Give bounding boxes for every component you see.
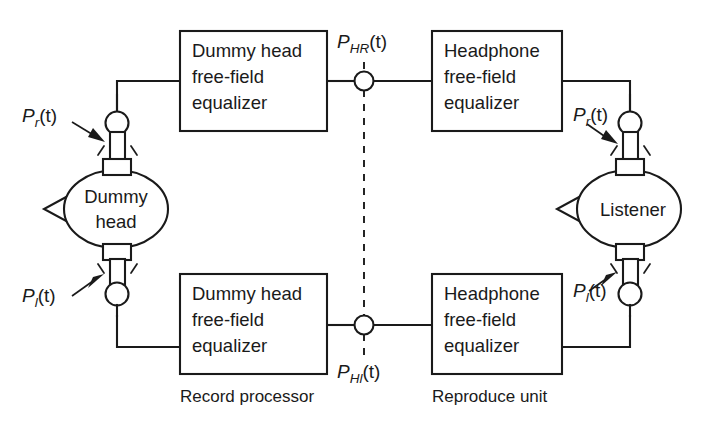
signal-label-node-bottom: PHl(t) <box>337 361 380 386</box>
block-record-top-line3: equalizer <box>192 92 267 113</box>
dummy-head-label-line2: head <box>95 211 136 232</box>
block-diagram-figure: Dummy head free-field equalizer Dummy he… <box>0 0 715 433</box>
arrow-head-listener-right-icon <box>601 130 618 144</box>
signal-label-listener-right: Pr(t) <box>573 104 608 129</box>
signal-listener-right-arg: (t) <box>590 104 608 125</box>
dummy-head-ellipse <box>64 170 168 248</box>
block-record-bottom-line2: free-field <box>192 309 264 330</box>
listener-right-ear-flap-right-icon <box>644 146 650 155</box>
signal-node-top-sub: HR <box>350 41 370 56</box>
arrow-head-dummy-left-icon <box>88 274 104 288</box>
block-reproduce-top-line1: Headphone <box>444 40 540 61</box>
signal-listener-right-base: P <box>573 104 586 125</box>
dummy-left-mic-capsule-icon <box>106 283 129 306</box>
signal-label-node-top: PHR(t) <box>337 31 387 56</box>
dummy-right-mic-stem <box>110 132 125 160</box>
block-reproduce-top-line2: free-field <box>444 66 516 87</box>
signal-node-bottom-sub: Hl <box>350 371 364 386</box>
caption-reproduce-unit: Reproduce unit <box>432 387 548 406</box>
listener-left-ear-flap-left-icon <box>611 264 617 273</box>
block-record-bottom-line1: Dummy head <box>192 283 302 304</box>
wire-reproduce-bottom-to-listener-left <box>562 316 630 347</box>
signal-node-top-base: P <box>337 31 350 52</box>
block-record-top-line2: free-field <box>192 66 264 87</box>
wire-dummy-right-to-record-top <box>117 81 180 112</box>
signal-dummy-right-base: P <box>22 105 35 126</box>
dummy-right-ear-flap-left-icon <box>98 146 104 155</box>
wire-dummy-left-to-record-bottom <box>117 316 180 347</box>
signal-listener-left-base: P <box>573 280 586 301</box>
signal-node-bottom-base: P <box>337 361 350 382</box>
block-reproduce-top-line3: equalizer <box>444 92 519 113</box>
signal-dummy-left-arg: (t) <box>38 285 56 306</box>
dummy-right-ear-coupler <box>103 159 131 175</box>
signal-listener-left-arg: (t) <box>589 280 607 301</box>
arrow-line-dummy-left <box>72 281 93 296</box>
listener-head-label: Listener <box>600 199 666 220</box>
signal-label-dummy-right: Pr(t) <box>22 105 57 130</box>
block-reproduce-bottom-line2: free-field <box>444 309 516 330</box>
signal-dummy-left-base: P <box>22 285 35 306</box>
node-circle-top[interactable] <box>355 72 374 91</box>
node-circle-bottom[interactable] <box>355 316 374 335</box>
listener-right-ear-coupler <box>616 159 644 175</box>
listener-left-ear-coupler <box>616 244 644 260</box>
dummy-left-ear-flap-right-icon <box>131 264 137 273</box>
listener-right-driver-stem <box>623 132 638 160</box>
block-record-top-line1: Dummy head <box>192 40 302 61</box>
signal-label-dummy-left: Pl(t) <box>22 285 56 310</box>
dummy-left-ear-coupler <box>103 244 131 260</box>
block-record-bottom-line3: equalizer <box>192 335 267 356</box>
block-reproduce-bottom-line1: Headphone <box>444 283 540 304</box>
block-reproduce-bottom-line3: equalizer <box>444 335 519 356</box>
arrow-head-dummy-right-icon <box>88 128 105 142</box>
signal-node-top-arg: (t) <box>369 31 387 52</box>
listener-left-driver-icon <box>619 283 642 306</box>
listener-right-ear-flap-left-icon <box>611 146 617 155</box>
signal-dummy-right-arg: (t) <box>39 105 57 126</box>
listener-left-ear-flap-right-icon <box>644 264 650 273</box>
diagram-canvas: Dummy head free-field equalizer Dummy he… <box>0 0 715 433</box>
signal-label-listener-left: Pl(t) <box>573 280 607 305</box>
dummy-right-ear-flap-right-icon <box>131 146 137 155</box>
caption-record-processor: Record processor <box>180 387 315 406</box>
signal-node-bottom-arg: (t) <box>362 361 380 382</box>
dummy-head-label-line1: Dummy <box>84 186 148 207</box>
dummy-left-ear-flap-left-icon <box>98 264 104 273</box>
